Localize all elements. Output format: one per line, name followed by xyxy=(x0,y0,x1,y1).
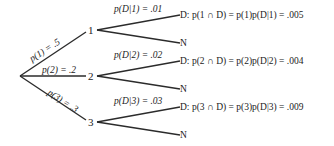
node-1: 1 xyxy=(88,24,94,36)
edge-3-to-D xyxy=(97,107,180,122)
edge-2-to-N xyxy=(97,76,180,89)
result-3-D: D: p(3 ∩ D) = p(3)p(D|3) = .009 xyxy=(180,102,304,113)
edge-3-to-N xyxy=(97,122,180,135)
edge-1-to-N xyxy=(97,30,180,43)
probability-tree-diagram: p(1) = .5 p(2) = .2 p(3) = .3 1 2 3 p(D|… xyxy=(0,0,334,146)
edge-label-p2: p(2) = .2 xyxy=(41,65,76,76)
edge-1-to-D xyxy=(97,15,180,30)
node-3: 3 xyxy=(88,116,94,128)
edge-label-pd2: p(D|2) = .02 xyxy=(113,50,163,61)
result-2-D: D: p(2 ∩ D) = p(2)p(D|2) = .004 xyxy=(180,56,304,67)
result-1-D: D: p(1 ∩ D) = p(1)p(D|1) = .005 xyxy=(180,10,304,21)
result-1-N: N xyxy=(180,38,187,48)
result-2-N: N xyxy=(180,84,187,94)
node-2: 2 xyxy=(88,70,94,82)
result-3-N: N xyxy=(180,130,187,140)
edge-2-to-D xyxy=(97,61,180,76)
edge-label-p3: p(3) = .3 xyxy=(45,87,81,115)
edge-label-pd1: p(D|1) = .01 xyxy=(113,4,162,15)
edge-label-pd3: p(D|3) = .03 xyxy=(113,96,163,107)
